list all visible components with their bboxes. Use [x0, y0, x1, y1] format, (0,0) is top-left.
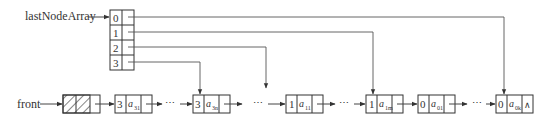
pointer-row-0	[128, 17, 504, 94]
array-index-3: 3	[113, 57, 119, 69]
array-pointers	[128, 17, 504, 94]
last-node-array: 0 1 2 3	[110, 10, 134, 70]
node-a0k: 0 a 0k ∧	[496, 95, 533, 113]
svg-text:0k: 0k	[515, 105, 521, 111]
pointer-row-1	[128, 32, 373, 94]
svg-text:0: 0	[420, 98, 426, 110]
front-label: front	[17, 97, 41, 111]
svg-text:01: 01	[437, 105, 443, 111]
linked-list-diagram: lastNodeArray 0 1 2 3 front 3 a 31 ⋯	[0, 0, 549, 126]
array-index-2: 2	[113, 42, 119, 54]
null-pointer: ∧	[524, 100, 531, 110]
svg-text:3: 3	[195, 98, 201, 110]
pointer-row-2	[128, 47, 266, 88]
pointer-row-3	[128, 62, 200, 94]
svg-text:31: 31	[134, 105, 140, 111]
ellipsis-2: ⋯	[253, 97, 263, 108]
array-label: lastNodeArray	[25, 9, 96, 23]
svg-text:a: a	[379, 98, 384, 109]
svg-text:11: 11	[305, 105, 311, 111]
svg-text:a: a	[431, 98, 436, 109]
array-index-0: 0	[113, 12, 119, 24]
ellipsis-1: ⋯	[165, 97, 175, 108]
svg-text:a: a	[299, 98, 304, 109]
array-index-1: 1	[113, 27, 119, 39]
svg-text:1: 1	[289, 98, 295, 110]
svg-text:1m: 1m	[385, 105, 393, 111]
svg-text:0: 0	[498, 98, 504, 110]
ellipsis-3: ⋯	[339, 97, 349, 108]
svg-text:3: 3	[117, 98, 123, 110]
svg-text:a: a	[206, 98, 211, 109]
svg-text:a: a	[509, 98, 514, 109]
svg-text:a: a	[128, 98, 133, 109]
svg-text:1: 1	[369, 98, 375, 110]
header-node	[63, 95, 100, 113]
ellipsis-4: ⋯	[472, 97, 482, 108]
svg-text:3n: 3n	[212, 105, 218, 111]
